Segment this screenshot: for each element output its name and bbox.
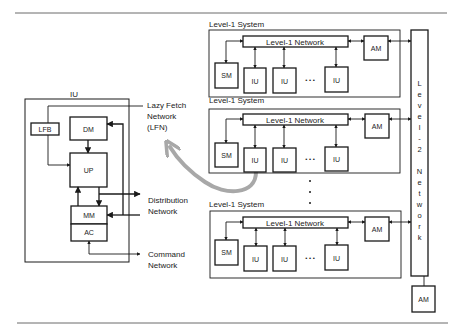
distribution-label-2: Network xyxy=(148,207,178,216)
sm-label: SM xyxy=(221,152,232,159)
zoom-highlight-arrow xyxy=(170,147,256,191)
level1-system-3: Level-1 System Level-1 Network SM IU IU … xyxy=(209,200,411,278)
lfb-label: LFB xyxy=(39,126,52,133)
level2-letter: k xyxy=(418,233,422,242)
lfn-label-3: (LFN) xyxy=(147,123,168,132)
ellipsis: • • • xyxy=(305,156,315,162)
continuation-dot xyxy=(309,202,311,204)
level2-letter: v xyxy=(418,101,422,110)
ellipsis: • • • xyxy=(305,255,315,261)
level1-network-label: Level-1 Network xyxy=(266,116,325,125)
lfn-label-1: Lazy Fetch xyxy=(147,101,186,110)
distribution-in-dm-line xyxy=(107,124,123,215)
iu-label: IU xyxy=(281,157,288,164)
dm-label: DM xyxy=(83,126,94,133)
sm-label: SM xyxy=(221,72,232,79)
iu-label: IU xyxy=(252,78,259,85)
iu-detail: IU LFB DM UP MM AC Lazy Fetch Network xyxy=(25,90,188,270)
am-label: AM xyxy=(372,123,383,130)
level1-network-label: Level-1 Network xyxy=(266,219,325,228)
iu-title: IU xyxy=(70,90,78,99)
level2-letter: N xyxy=(417,167,422,176)
level2-letter: 2 xyxy=(417,145,421,154)
command-label-2: Network xyxy=(148,261,178,270)
lfn-label-2: Network xyxy=(147,112,177,121)
distribution-label-1: Distribution xyxy=(148,196,188,205)
iu-label: IU xyxy=(281,78,288,85)
ac-label: AC xyxy=(84,229,94,236)
level2-letter: L xyxy=(417,79,421,88)
level2-letter: w xyxy=(416,200,423,209)
level2-letter: e xyxy=(417,112,421,121)
level2-network: L e v e l - 2 N e t w o r k AM xyxy=(411,30,435,312)
am-label: AM xyxy=(372,226,383,233)
iu-label: IU xyxy=(333,255,340,262)
continuation-dot xyxy=(309,191,311,193)
level1-system-label: Level-1 System xyxy=(209,96,264,105)
level1-system-1: Level-1 System Level-1 Network SM IU IU … xyxy=(209,20,411,97)
ellipsis: • • • xyxy=(305,77,315,83)
level2-am-label: AM xyxy=(418,296,429,303)
level2-letter: o xyxy=(417,211,421,220)
iu-label: IU xyxy=(281,256,288,263)
hierarchical-system-diagram: IU LFB DM UP MM AC Lazy Fetch Network xyxy=(0,0,466,335)
lfb-to-up-line xyxy=(48,135,70,165)
level1-system-2: Level-1 System Level-1 Network SM IU IU … xyxy=(209,96,411,173)
sm-link xyxy=(226,119,243,143)
sm-link xyxy=(226,41,243,63)
level1-network-label: Level-1 Network xyxy=(266,38,325,47)
level1-system-label: Level-1 System xyxy=(209,200,264,209)
sm-link xyxy=(226,222,243,240)
continuation-dot xyxy=(309,180,311,182)
sm-label: SM xyxy=(221,249,232,256)
command-label-1: Command xyxy=(148,250,185,259)
level2-letter: e xyxy=(417,90,421,99)
iu-label: IU xyxy=(333,77,340,84)
mm-label: MM xyxy=(83,212,95,219)
level1-system-label: Level-1 System xyxy=(209,20,264,29)
iu-label: IU xyxy=(252,157,259,164)
up-label: UP xyxy=(84,167,94,174)
iu-label: IU xyxy=(252,256,259,263)
iu-label: IU xyxy=(333,156,340,163)
am-label: AM xyxy=(371,45,382,52)
level2-letter: e xyxy=(417,178,421,187)
